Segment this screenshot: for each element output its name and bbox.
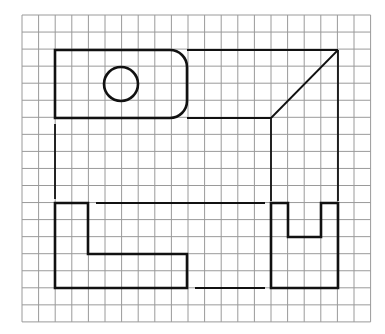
hole-circle	[104, 67, 138, 101]
front-view-l-shape	[55, 203, 187, 288]
grid	[22, 15, 371, 322]
top-view	[55, 50, 187, 118]
drawing-canvas	[0, 0, 385, 334]
top-view-outline	[55, 50, 187, 118]
projection-lines	[55, 50, 338, 288]
views	[55, 50, 338, 288]
